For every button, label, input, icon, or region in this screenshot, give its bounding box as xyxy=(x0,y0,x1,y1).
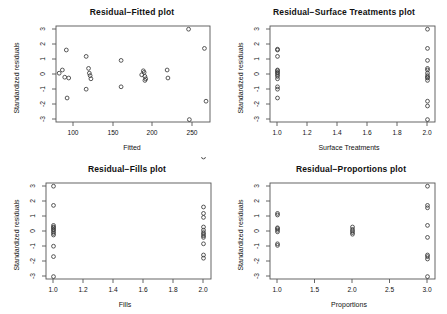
x-tick-label: 1.4 xyxy=(332,129,341,136)
data-point xyxy=(165,68,169,72)
data-point xyxy=(87,71,91,75)
data-point xyxy=(425,99,429,103)
plot-frame xyxy=(56,26,210,122)
chart-title: Residual−Surface Treatments plot xyxy=(272,7,414,17)
y-tick-label: 3 xyxy=(253,27,260,31)
data-point xyxy=(425,118,429,122)
y-tick-label: 0 xyxy=(39,72,46,76)
y-tick-label: 0 xyxy=(253,229,260,233)
x-tick-label: 1.8 xyxy=(392,129,401,136)
data-point xyxy=(202,212,206,216)
data-point xyxy=(202,216,206,220)
chart-title: Residual−Proportions plot xyxy=(295,164,405,174)
y-tick-label: -3 xyxy=(253,273,260,279)
data-point xyxy=(84,87,88,91)
data-point xyxy=(119,85,123,89)
x-tick-label: 1.4 xyxy=(108,286,117,293)
plot-frame xyxy=(46,183,211,279)
y-tick-label: 3 xyxy=(29,184,36,188)
y-axis-ticks: 3 2 1 0 -1 -2 -3 xyxy=(253,184,270,279)
y-tick-label: 1 xyxy=(29,214,36,218)
y-tick-label: 1 xyxy=(39,57,46,61)
x-axis-label: Fitted xyxy=(123,144,141,151)
data-point xyxy=(52,255,56,259)
data-point xyxy=(67,76,71,80)
residual-plot-grid: Residual−Fitted plot Fitted Standardized… xyxy=(0,0,447,314)
data-point xyxy=(52,275,56,279)
y-tick-label: 3 xyxy=(39,27,46,31)
chart-residual-proportions: Residual−Proportions plot Proportions St… xyxy=(224,157,447,314)
x-tick-label: 1.0 xyxy=(272,129,281,136)
data-point xyxy=(425,47,429,51)
data-point xyxy=(425,27,429,31)
x-tick-label: 2.0 xyxy=(347,286,356,293)
y-tick-label: -2 xyxy=(29,258,36,264)
data-point xyxy=(425,59,429,63)
y-tick-label: 1 xyxy=(253,214,260,218)
y-axis-label: Standardized residuals xyxy=(237,199,244,271)
data-point xyxy=(52,204,56,208)
data-point xyxy=(202,157,206,159)
x-tick-label: 1.2 xyxy=(78,286,87,293)
data-point xyxy=(275,77,279,81)
data-point xyxy=(204,99,208,103)
y-tick-label: -2 xyxy=(253,258,260,264)
data-points xyxy=(275,27,429,121)
x-tick-label: 1.6 xyxy=(362,129,371,136)
data-point xyxy=(425,224,429,228)
x-axis-label: Surface Treatments xyxy=(318,144,380,151)
data-point xyxy=(65,96,69,100)
x-tick-label: 200 xyxy=(146,129,157,136)
data-point xyxy=(84,55,88,59)
y-tick-label: 3 xyxy=(253,184,260,188)
y-tick-label: -3 xyxy=(29,273,36,279)
x-tick-label: 1.8 xyxy=(168,286,177,293)
data-point xyxy=(143,75,147,79)
data-point xyxy=(187,118,191,122)
chart-residual-fills: Residual−Fills plot Fills Standardized r… xyxy=(0,157,224,314)
chart-title: Residual−Fitted plot xyxy=(90,7,174,17)
x-tick-label: 2.0 xyxy=(422,129,431,136)
x-tick-label: 1.0 xyxy=(272,286,281,293)
data-points xyxy=(52,157,206,279)
x-tick-label: 1.2 xyxy=(302,129,311,136)
chart-residual-surface-treatments: Residual−Surface Treatments plot Surface… xyxy=(224,0,447,157)
x-axis-label: Proportions xyxy=(331,301,367,309)
x-axis-ticks: 100 150 200 250 xyxy=(67,122,197,136)
x-tick-label: 150 xyxy=(107,129,118,136)
x-tick-label: 3.0 xyxy=(422,286,431,293)
y-tick-label: -2 xyxy=(39,101,46,107)
y-tick-label: 1 xyxy=(253,57,260,61)
panel-residual-fitted: Residual−Fitted plot Fitted Standardized… xyxy=(0,0,224,157)
data-point xyxy=(425,257,429,261)
data-point xyxy=(202,205,206,209)
y-tick-label: -1 xyxy=(39,86,46,92)
data-point xyxy=(275,96,279,100)
y-axis-label: Standardized residuals xyxy=(237,42,244,114)
data-point xyxy=(52,184,56,188)
panel-residual-fills: Residual−Fills plot Fills Standardized r… xyxy=(0,157,224,314)
data-point xyxy=(64,48,68,52)
y-axis-ticks: 3 2 1 0 -1 -2 -3 xyxy=(29,184,46,279)
data-points xyxy=(275,184,429,278)
y-tick-label: 2 xyxy=(253,42,260,46)
x-tick-label: 1.6 xyxy=(138,286,147,293)
y-axis-ticks: 3 2 1 0 -1 -2 -3 xyxy=(39,27,56,122)
data-point xyxy=(166,76,170,80)
data-point xyxy=(425,184,429,188)
y-tick-label: -3 xyxy=(39,116,46,122)
data-point xyxy=(57,71,61,75)
y-tick-label: -1 xyxy=(29,243,36,249)
data-point xyxy=(187,27,191,31)
panel-residual-proportions: Residual−Proportions plot Proportions St… xyxy=(224,157,447,314)
plot-frame xyxy=(270,26,435,122)
data-point xyxy=(425,206,429,210)
y-tick-label: -1 xyxy=(253,86,260,92)
x-axis-ticks: 1.0 1.2 1.4 1.6 1.8 2.0 xyxy=(48,279,207,293)
data-point xyxy=(425,236,429,240)
data-point xyxy=(203,47,207,51)
data-point xyxy=(202,242,206,246)
data-point xyxy=(275,87,279,91)
y-tick-label: 0 xyxy=(29,229,36,233)
chart-residual-fitted: Residual−Fitted plot Fitted Standardized… xyxy=(0,0,224,157)
